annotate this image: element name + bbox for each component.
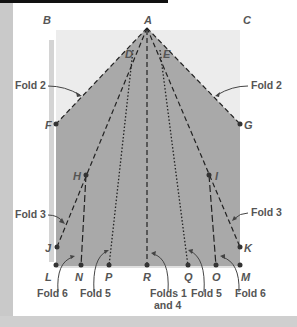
point-M-dot (238, 263, 243, 268)
point-G-label: G (244, 119, 253, 131)
point-L-label: L (45, 271, 52, 283)
fold5-right-label: Fold 5 (191, 287, 222, 299)
point-I-dot (207, 173, 212, 178)
fold3-right-label: Fold 3 (251, 206, 282, 218)
point-H-dot (84, 173, 89, 178)
point-C-label: C (243, 14, 252, 26)
fold5-left-label: Fold 5 (80, 287, 111, 299)
point-H-label: H (73, 170, 82, 182)
fold2-right-label: Fold 2 (251, 79, 282, 91)
fold6-right-label: Fold 6 (235, 287, 266, 299)
point-G-dot (238, 122, 243, 127)
fold2-left-label: Fold 2 (15, 79, 46, 91)
origami-fold-diagram: A B C D E F G H I J K L N P R Q O M Fold… (0, 0, 297, 327)
point-B-label: B (43, 14, 51, 26)
point-R-label: R (143, 271, 151, 283)
point-M-label: M (241, 271, 251, 283)
point-J-label: J (45, 242, 52, 254)
point-P-dot (107, 263, 112, 268)
point-N-dot (79, 263, 84, 268)
point-Q-dot (186, 263, 191, 268)
point-R-dot (145, 263, 150, 268)
paper-edge-shadow (49, 40, 54, 262)
point-E-label: E (163, 48, 171, 60)
point-P-label: P (105, 271, 113, 283)
point-O-dot (214, 263, 219, 268)
point-N-label: N (75, 271, 84, 283)
point-K-dot (238, 245, 243, 250)
point-A-label: A (143, 14, 152, 26)
point-Q-label: Q (184, 271, 193, 283)
point-O-label: O (212, 271, 221, 283)
point-L-dot (54, 263, 59, 268)
point-J-dot (55, 245, 60, 250)
folds14-label-line2: and 4 (154, 299, 182, 311)
folds14-label-line1: Folds 1 (150, 287, 187, 299)
point-K-label: K (244, 242, 253, 254)
point-F-label: F (45, 119, 52, 131)
fold3-left-label: Fold 3 (15, 208, 46, 220)
point-F-dot (54, 122, 59, 127)
fold6-left-label: Fold 6 (37, 287, 68, 299)
point-D-label: D (125, 48, 133, 60)
